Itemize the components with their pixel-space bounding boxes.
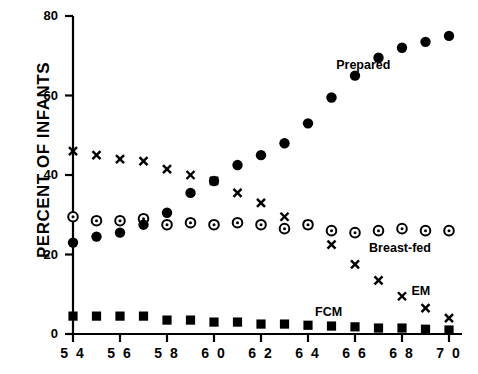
y-tick-label: 20 [24, 247, 58, 262]
chart-container: PERCENT OF INFANTS 0204060805 45 65 86 0… [0, 0, 478, 374]
x-tick-label: 5 4 [53, 345, 93, 361]
scatter-plot-svg [0, 0, 478, 374]
series-label-breast-fed: Breast-fed [369, 241, 431, 255]
x-tick-label: 6 4 [288, 345, 328, 361]
y-tick-label: 60 [24, 88, 58, 103]
series-label-fcm: FCM [315, 305, 342, 319]
series-prepared [68, 31, 454, 248]
y-tick-label: 80 [24, 8, 58, 23]
series-fcm [68, 312, 453, 335]
series-label-em: EM [411, 284, 430, 298]
x-tick-label: 6 0 [194, 345, 234, 361]
x-tick-label: 6 8 [382, 345, 422, 361]
series-em [69, 147, 453, 322]
axes [73, 16, 462, 334]
x-tick-label: 5 6 [100, 345, 140, 361]
series-breast-fed [68, 212, 454, 238]
x-tick-label: 6 2 [241, 345, 281, 361]
y-tick-label: 0 [24, 326, 58, 341]
x-tick-label: 7 0 [429, 345, 469, 361]
x-tick-label: 6 6 [335, 345, 375, 361]
x-tick-label: 5 8 [147, 345, 187, 361]
series-label-prepared: Prepared [336, 58, 390, 72]
y-tick-label: 40 [24, 167, 58, 182]
